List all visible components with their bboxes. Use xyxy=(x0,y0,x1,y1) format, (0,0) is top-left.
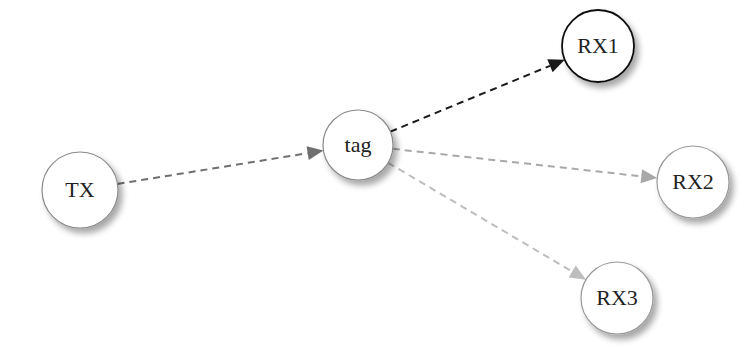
node-label: RX1 xyxy=(577,33,619,58)
edge-tag-to-rx1 xyxy=(390,59,564,131)
node-label: RX2 xyxy=(672,169,714,194)
diagram-canvas: TXtagRX1RX2RX3 xyxy=(0,0,752,360)
node-rx3: RX3 xyxy=(581,262,653,334)
node-label: RX3 xyxy=(596,285,638,310)
edge-line xyxy=(388,163,572,272)
node-tag: tag xyxy=(323,110,393,180)
edge-line xyxy=(393,149,642,176)
edge-tag-to-rx3 xyxy=(388,163,586,280)
edge-line xyxy=(390,66,550,132)
arrowhead-icon xyxy=(641,169,658,183)
node-label: TX xyxy=(65,177,94,202)
node-label: tag xyxy=(345,132,372,157)
edge-tag-to-rx2 xyxy=(393,149,657,183)
edge-tx-to-tag xyxy=(118,146,324,184)
edges-layer xyxy=(118,59,658,279)
node-rx1: RX1 xyxy=(562,10,634,82)
arrowhead-icon xyxy=(307,146,324,160)
node-rx2: RX2 xyxy=(657,146,729,218)
arrowhead-icon xyxy=(569,266,586,280)
nodes-layer: TXtagRX1RX2RX3 xyxy=(42,10,729,334)
node-tx: TX xyxy=(42,152,118,228)
edge-line xyxy=(118,153,308,184)
